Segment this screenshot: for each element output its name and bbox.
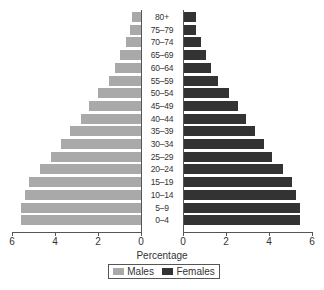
x-tick-label: 2 xyxy=(91,236,105,247)
age-group-label: 15–19 xyxy=(141,177,183,187)
male-bar xyxy=(109,76,141,86)
male-bar xyxy=(40,164,141,174)
x-tick-label: 0 xyxy=(134,236,148,247)
male-bar xyxy=(126,37,141,47)
female-bar xyxy=(184,101,238,111)
age-group-label: 25–29 xyxy=(141,152,183,162)
female-bar xyxy=(184,190,296,200)
age-group-label: 60–64 xyxy=(141,63,183,73)
age-group-label: 70–74 xyxy=(141,37,183,47)
x-tick-label: 0 xyxy=(176,236,190,247)
male-bar xyxy=(132,12,141,22)
age-group-label: 30–34 xyxy=(141,139,183,149)
males-swatch-icon xyxy=(113,268,124,275)
female-bar xyxy=(184,25,196,35)
male-bar xyxy=(120,50,142,60)
age-group-label: 55–59 xyxy=(141,76,183,86)
x-axis-label: Percentage xyxy=(0,250,324,261)
age-group-label: 0–4 xyxy=(141,215,183,225)
age-group-label: 5–9 xyxy=(141,203,183,213)
male-bar xyxy=(89,101,141,111)
male-bar xyxy=(115,63,141,73)
age-group-label: 10–14 xyxy=(141,190,183,200)
x-tick-label: 4 xyxy=(48,236,62,247)
female-x-axis xyxy=(183,232,313,233)
male-bar xyxy=(98,88,141,98)
female-bar xyxy=(184,126,255,136)
age-group-label: 40–44 xyxy=(141,114,183,124)
legend-item-males: Males xyxy=(113,266,154,277)
female-bar xyxy=(184,139,264,149)
male-bar xyxy=(51,152,141,162)
population-pyramid-chart: 80+75–7970–7465–6960–6455–5950–5445–4940… xyxy=(0,0,324,290)
female-bar xyxy=(184,12,196,22)
age-group-label: 45–49 xyxy=(141,101,183,111)
female-bar xyxy=(184,164,283,174)
age-group-label: 35–39 xyxy=(141,126,183,136)
female-bar xyxy=(184,215,300,225)
female-bar xyxy=(184,63,211,73)
female-bar xyxy=(184,203,300,213)
age-group-label: 80+ xyxy=(141,12,183,22)
female-bar xyxy=(184,88,229,98)
female-axis-line xyxy=(183,10,184,232)
age-group-label: 75–79 xyxy=(141,25,183,35)
age-group-label: 50–54 xyxy=(141,88,183,98)
legend: Males Females xyxy=(108,264,220,279)
male-bar xyxy=(29,177,141,187)
age-group-label: 20–24 xyxy=(141,164,183,174)
male-bar xyxy=(25,190,141,200)
x-tick-label: 6 xyxy=(305,236,319,247)
female-bar xyxy=(184,114,246,124)
male-bar xyxy=(21,215,141,225)
legend-label-females: Females xyxy=(176,266,214,277)
male-bar xyxy=(130,25,141,35)
male-bar xyxy=(61,139,141,149)
female-bar xyxy=(184,37,201,47)
x-tick-label: 4 xyxy=(262,236,276,247)
females-swatch-icon xyxy=(162,268,173,275)
legend-item-females: Females xyxy=(162,266,214,277)
age-group-label: 65–69 xyxy=(141,50,183,60)
female-bar xyxy=(184,177,292,187)
female-bar xyxy=(184,50,206,60)
male-bar xyxy=(70,126,141,136)
legend-label-males: Males xyxy=(127,266,154,277)
male-axis-line xyxy=(141,10,142,232)
female-bar xyxy=(184,152,272,162)
female-bar xyxy=(184,76,218,86)
male-x-axis xyxy=(12,232,142,233)
x-tick-label: 2 xyxy=(219,236,233,247)
male-bar xyxy=(21,203,141,213)
x-tick-label: 6 xyxy=(5,236,19,247)
male-bar xyxy=(81,114,141,124)
